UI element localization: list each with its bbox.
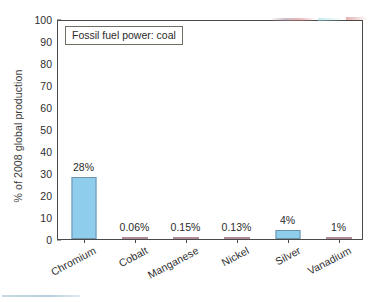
x-tick-label: Silver bbox=[273, 244, 302, 267]
x-tick-mark bbox=[288, 239, 289, 243]
x-tick-mark bbox=[135, 239, 136, 243]
bar-value-label: 4% bbox=[280, 214, 295, 226]
x-tick-label: Vanadium bbox=[306, 244, 353, 277]
scan-artifact bbox=[2, 295, 80, 297]
bar-group: 1% bbox=[313, 21, 364, 239]
bar-value-label: 1% bbox=[331, 221, 346, 233]
y-tick-label: 10 bbox=[22, 212, 52, 224]
y-tick-label: 50 bbox=[22, 124, 52, 136]
bar-group: 28% bbox=[58, 21, 109, 239]
y-tick-label: 70 bbox=[22, 80, 52, 92]
bar-group: 0.15% bbox=[160, 21, 211, 239]
bar-group: 4% bbox=[262, 21, 313, 239]
x-tick-label: Cobalt bbox=[116, 244, 149, 269]
x-tick-mark bbox=[237, 239, 238, 243]
y-tick-label: 60 bbox=[22, 102, 52, 114]
y-tick-label: 90 bbox=[22, 36, 52, 48]
y-tick-label: 80 bbox=[22, 58, 52, 70]
bar-chart-figure: % of 2008 global production 010203040506… bbox=[0, 0, 381, 302]
x-tick-label: Nickel bbox=[220, 244, 251, 268]
bar-value-label: 28% bbox=[73, 161, 94, 173]
x-tick-label: Manganese bbox=[145, 244, 200, 281]
bar bbox=[71, 177, 96, 239]
y-tick-label: 40 bbox=[22, 146, 52, 158]
y-tick-label: 100 bbox=[22, 14, 52, 26]
x-tick-mark bbox=[339, 239, 340, 243]
y-tick-label: 20 bbox=[22, 190, 52, 202]
bar-group: 0.06% bbox=[109, 21, 160, 239]
plot-area: Fossil fuel power: coal 28%0.06%0.15%0.1… bbox=[57, 20, 363, 240]
y-tick-label: 30 bbox=[22, 168, 52, 180]
bar-value-label: 0.15% bbox=[171, 221, 201, 233]
bar-value-label: 0.06% bbox=[120, 221, 150, 233]
bar-group: 0.13% bbox=[211, 21, 262, 239]
bar bbox=[275, 230, 300, 239]
x-tick-label: Chromium bbox=[49, 244, 98, 278]
bar-value-label: 0.13% bbox=[222, 221, 252, 233]
bar-series: 28%0.06%0.15%0.13%4%1% bbox=[58, 21, 362, 239]
y-tick-label: 0 bbox=[22, 234, 52, 246]
x-tick-mark bbox=[186, 239, 187, 243]
x-tick-mark bbox=[84, 239, 85, 243]
